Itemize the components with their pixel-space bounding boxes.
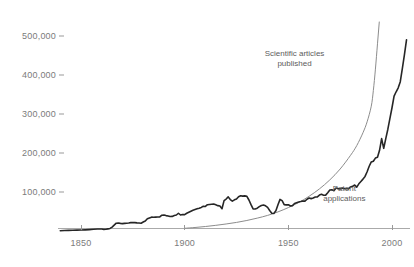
annotation-line: Patent (323, 184, 365, 194)
y-axis-tick-mark (59, 153, 64, 154)
x-axis-tick-mark (184, 225, 185, 230)
chart-container: 100,000200,000300,000400,000500,000 1850… (0, 0, 414, 267)
y-axis-tick-mark (59, 75, 64, 76)
x-axis-tick-label: 1900 (174, 238, 195, 248)
chart-plot-area (0, 0, 414, 267)
x-axis-tick-label: 1950 (278, 238, 299, 248)
y-axis-tick-label: 300,000 (22, 109, 56, 119)
annotation-line: published (265, 59, 325, 69)
y-axis-tick-mark (59, 36, 64, 37)
series-annotation-patent-applications: Patentapplications (323, 184, 365, 204)
x-axis-tick-mark (288, 225, 289, 230)
annotation-line: applications (323, 194, 365, 204)
y-axis-tick-mark (59, 114, 64, 115)
x-axis-tick-label: 1850 (71, 238, 92, 248)
x-axis-tick-mark (81, 225, 82, 230)
x-axis-tick-label: 2000 (382, 238, 403, 248)
y-axis-tick-label: 400,000 (22, 70, 56, 80)
annotation-line: Scientific articles (265, 49, 325, 59)
y-axis-tick-label: 200,000 (22, 148, 56, 158)
y-axis-tick-label: 100,000 (22, 187, 56, 197)
y-axis-tick-label: 500,000 (22, 31, 56, 41)
series-annotation-scientific-articles-published: Scientific articlespublished (265, 49, 325, 69)
x-axis-tick-mark (392, 225, 393, 230)
y-axis-tick-mark (59, 192, 64, 193)
